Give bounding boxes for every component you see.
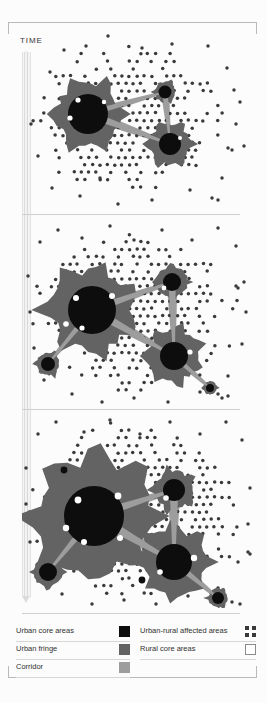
affected-dot xyxy=(98,163,102,167)
affected-dot xyxy=(190,155,194,159)
affected-dot xyxy=(106,178,110,182)
affected-dot xyxy=(183,111,187,115)
affected-dot-outlier xyxy=(138,432,142,436)
frame-corner-bottom-right xyxy=(256,666,257,678)
affected-dot xyxy=(194,119,198,123)
affected-dot xyxy=(117,388,121,392)
affected-dot xyxy=(153,466,157,470)
affected-dot xyxy=(143,458,147,462)
affected-dot xyxy=(121,577,125,581)
affected-dot-outlier xyxy=(56,228,60,232)
affected-dot xyxy=(157,104,161,108)
affected-dot xyxy=(179,248,183,252)
affected-dot xyxy=(80,373,84,377)
affected-dot-outlier xyxy=(234,122,238,126)
affected-dot xyxy=(135,307,139,311)
affected-dot xyxy=(120,74,124,78)
affected-dot xyxy=(139,359,143,363)
affected-dot xyxy=(113,74,117,78)
affected-dot-outlier xyxy=(186,594,190,598)
affected-dot xyxy=(183,81,187,85)
affected-dot xyxy=(183,510,187,514)
affected-dot xyxy=(91,429,95,433)
affected-dot xyxy=(198,496,202,500)
affected-dot xyxy=(190,127,194,131)
affected-dot xyxy=(186,321,190,325)
affected-dot xyxy=(116,82,120,86)
affected-dot xyxy=(94,374,98,378)
affected-dot xyxy=(176,112,180,116)
affected-dot xyxy=(142,119,146,123)
affected-dot xyxy=(124,97,128,101)
affected-dot xyxy=(153,451,157,455)
affected-dot xyxy=(135,444,139,448)
rural-core xyxy=(187,349,192,354)
affected-dot xyxy=(149,592,153,596)
affected-dot xyxy=(109,359,113,363)
affected-dot xyxy=(194,459,198,463)
affected-dot xyxy=(195,307,199,311)
affected-dot-outlier xyxy=(154,602,158,606)
affected-dot xyxy=(117,569,121,573)
affected-dot-outlier xyxy=(132,396,136,400)
affected-dot xyxy=(179,444,183,448)
stage-diagram-3 xyxy=(22,412,257,608)
affected-dot xyxy=(165,322,169,326)
affected-dot xyxy=(217,532,221,536)
affected-dot xyxy=(198,82,202,86)
urban-core xyxy=(68,286,116,334)
affected-dot xyxy=(150,277,154,281)
affected-dot xyxy=(79,52,83,56)
urban-core xyxy=(160,342,188,370)
affected-dot xyxy=(95,254,99,258)
affected-dot xyxy=(80,451,84,455)
affected-dot xyxy=(80,170,84,174)
affected-dot xyxy=(213,495,217,499)
affected-dot-outlier xyxy=(232,88,236,92)
affected-dot xyxy=(194,263,198,267)
affected-dot xyxy=(124,170,128,174)
affected-dot xyxy=(35,285,39,289)
affected-dot-outlier xyxy=(84,44,88,48)
affected-dot xyxy=(120,148,124,152)
rural-core xyxy=(75,497,82,504)
affected-dot xyxy=(116,373,120,377)
affected-dot xyxy=(120,277,124,281)
affected-dot xyxy=(205,112,209,116)
affected-dot-outlier xyxy=(242,144,246,148)
affected-dot xyxy=(116,343,120,347)
affected-dot xyxy=(149,429,153,433)
affected-dot xyxy=(150,119,154,123)
frame-top-edge xyxy=(8,22,257,23)
affected-dot xyxy=(142,104,146,108)
affected-dot-outlier xyxy=(168,420,172,424)
affected-dot xyxy=(209,517,213,521)
affected-dot xyxy=(228,344,232,348)
affected-dot xyxy=(76,458,80,462)
affected-dot xyxy=(131,185,135,189)
affected-dot-outlier xyxy=(190,238,194,242)
affected-dot xyxy=(220,299,224,303)
rural-core xyxy=(67,115,72,120)
affected-dot xyxy=(183,451,187,455)
affected-dot-outlier xyxy=(230,148,234,152)
affected-dot xyxy=(146,126,150,130)
affected-dot xyxy=(217,547,221,551)
affected-dot-outlier xyxy=(32,346,36,350)
affected-dot xyxy=(205,299,209,303)
affected-dot xyxy=(75,262,79,266)
affected-dot xyxy=(217,517,221,521)
affected-dot xyxy=(113,248,117,252)
affected-dot xyxy=(216,119,220,123)
affected-dot xyxy=(161,170,165,174)
affected-dot xyxy=(61,74,64,78)
urban-core xyxy=(39,563,57,581)
affected-dot xyxy=(132,344,136,348)
affected-dot xyxy=(79,156,83,160)
affected-dot xyxy=(113,164,117,168)
legend-label-rural-core: Rural core areas xyxy=(140,645,195,656)
affected-dot xyxy=(202,321,206,325)
affected-dot xyxy=(128,119,132,123)
affected-dot xyxy=(120,592,124,596)
affected-dot xyxy=(183,96,187,100)
